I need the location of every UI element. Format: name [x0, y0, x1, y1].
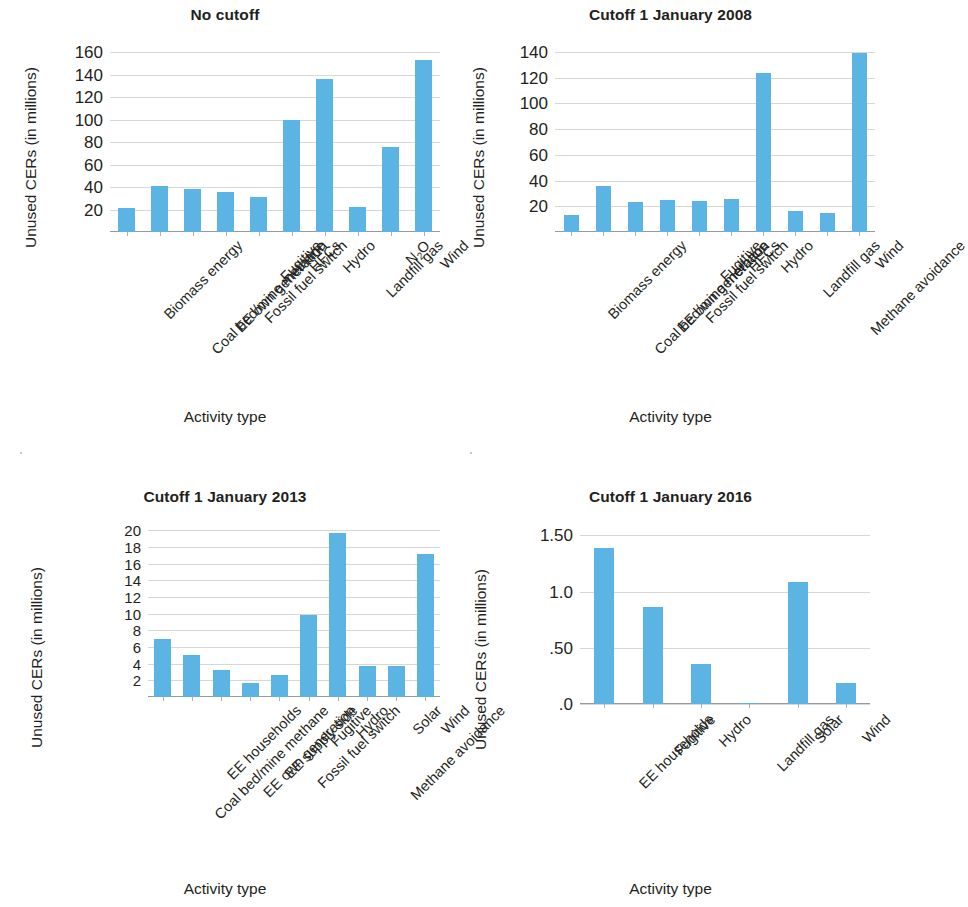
plot-area-cutoff-2016: .0.501.01.50EE householdsFugitiveHydroLa… [580, 522, 870, 704]
bar [118, 208, 135, 232]
y-axis-title-cutoff-2008: Unused CERs (in millions) [470, 67, 488, 248]
y-axis-tick-label: 12 [124, 590, 148, 605]
x-axis-tick [667, 232, 668, 236]
bar [184, 189, 201, 232]
x-axis-tick [279, 697, 280, 701]
x-axis-tick [763, 232, 764, 236]
bar [242, 683, 259, 697]
bar [217, 192, 234, 233]
chart-title-cutoff-2008: Cutoff 1 January 2008 [450, 6, 891, 24]
y-axis-tick-label: 80 [84, 134, 110, 151]
scan-speck [470, 452, 472, 454]
y-axis-tick-label: 40 [84, 179, 110, 196]
x-axis-tick-label: Solar [410, 703, 445, 738]
bar [154, 639, 171, 697]
x-axis-tick-label: Hydro [716, 712, 754, 750]
y-axis-tick-label: 60 [84, 156, 110, 173]
x-axis-tick [259, 232, 260, 236]
x-axis-tick [127, 232, 128, 236]
bar [382, 147, 399, 233]
x-axis-tick [391, 232, 392, 236]
y-axis-tick-label: 160 [75, 44, 110, 61]
x-axis-tick [859, 232, 860, 236]
x-axis-tick-label: Solar [811, 712, 846, 747]
x-axis-tick-label: Biomass energy [161, 238, 245, 322]
y-axis-tick-label: 14 [124, 573, 148, 588]
x-axis-tick [226, 232, 227, 236]
gridline [148, 647, 440, 648]
y-axis-tick-label: 4 [133, 656, 148, 671]
x-axis-tick [699, 232, 700, 236]
bar [596, 186, 611, 232]
plot-area-no-cutoff: 20406080100120140160Biomass energyCoal b… [110, 52, 440, 232]
gridline [148, 564, 440, 565]
y-axis-tick-label: 40 [529, 172, 555, 189]
y-axis-tick-label: 140 [75, 66, 110, 83]
bar [316, 79, 333, 232]
x-axis-tick-label: Landfill gas [820, 238, 883, 301]
gridline [110, 75, 440, 76]
y-axis-tick-label: 8 [133, 623, 148, 638]
bar [183, 655, 200, 697]
y-axis-tick-label: 1.50 [540, 527, 580, 544]
x-axis-tick [325, 232, 326, 236]
bar [788, 582, 808, 704]
x-axis-tick [701, 704, 702, 708]
bar [643, 607, 663, 704]
x-axis-tick [571, 232, 572, 236]
y-axis-tick-label: 120 [75, 89, 110, 106]
x-axis-tick-label: Biomass energy [605, 238, 689, 322]
y-axis-tick-label: 100 [75, 111, 110, 128]
gridline [555, 129, 875, 130]
chart-panel-cutoff-2016: Cutoff 1 January 2016 Unused CERs (in mi… [450, 460, 891, 907]
x-axis-tick [846, 704, 847, 708]
chart-panel-no-cutoff: No cutoff Unused CERs (in millions) 2040… [0, 0, 450, 460]
bar [660, 200, 675, 232]
x-axis-tick [653, 704, 654, 708]
x-axis-tick [250, 697, 251, 701]
y-axis-tick-label: 16 [124, 556, 148, 571]
bar [300, 615, 317, 697]
bar [283, 120, 300, 233]
bar [594, 548, 614, 704]
x-axis-tick [192, 697, 193, 701]
x-axis-title-no-cutoff: Activity type [0, 408, 450, 426]
bar [349, 207, 366, 232]
bar [564, 215, 579, 232]
x-axis-tick-label: Wind [860, 712, 894, 746]
gridline [555, 103, 875, 104]
gridline [580, 704, 870, 705]
gridline [580, 535, 870, 536]
bar [820, 213, 835, 232]
y-axis-tick-label: 2 [133, 673, 148, 688]
x-axis-tick [309, 697, 310, 701]
gridline [148, 547, 440, 548]
bar [628, 202, 643, 232]
x-axis-tick [358, 232, 359, 236]
y-axis-tick-label: .50 [549, 639, 580, 656]
x-axis-tick [425, 697, 426, 701]
x-axis-tick [160, 232, 161, 236]
y-axis-tick-label: 20 [124, 523, 148, 538]
chart-title-no-cutoff: No cutoff [0, 6, 450, 24]
bar [213, 670, 230, 697]
bar [359, 666, 376, 697]
gridline [148, 580, 440, 581]
bar [329, 533, 346, 697]
gridline [580, 648, 870, 649]
bar [788, 211, 803, 232]
y-axis-tick-label: 18 [124, 540, 148, 555]
gridline [555, 78, 875, 79]
y-axis-title-cutoff-2016: Unused CERs (in millions) [472, 569, 490, 750]
y-axis-tick-label: 10 [124, 606, 148, 621]
chart-panel-cutoff-2013: Cutoff 1 January 2013 Unused CERs (in mi… [0, 460, 450, 907]
y-axis-tick-label: 20 [529, 198, 555, 215]
y-axis-tick-label: 100 [520, 95, 555, 112]
chart-title-cutoff-2013: Cutoff 1 January 2013 [0, 488, 450, 506]
plot-area-cutoff-2008: 20406080100120140Biomass energyCoal bed/… [555, 52, 875, 232]
bar [852, 53, 867, 232]
bar [415, 60, 432, 232]
x-axis-tick [163, 697, 164, 701]
x-axis-tick-label: Coal bed/mine methane [212, 703, 332, 823]
